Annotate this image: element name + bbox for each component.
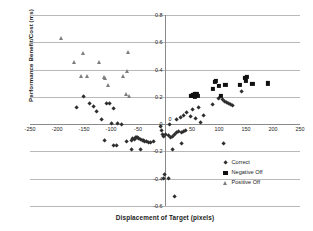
chart-legend: Correct Negative Off Positive Off bbox=[222, 158, 263, 188]
x-tick-label: 200 bbox=[269, 126, 278, 132]
data-point-negative-off bbox=[243, 76, 247, 80]
gridline bbox=[30, 206, 300, 207]
data-point-negative-off bbox=[213, 80, 217, 84]
x-tick-label: 0 bbox=[169, 116, 172, 122]
x-axis-title: Displacement of Target (pixels) bbox=[30, 214, 300, 221]
data-point-negative-off bbox=[194, 92, 198, 96]
y-tick-label: 0.4 bbox=[155, 67, 163, 73]
legend-label: Positive Off bbox=[232, 180, 261, 186]
legend-label: Negative Off bbox=[232, 170, 263, 176]
legend-item-positive-off: Positive Off bbox=[222, 178, 263, 188]
x-tick-label: -100 bbox=[106, 126, 117, 132]
data-point-negative-off bbox=[237, 83, 241, 87]
data-point-positive-off bbox=[126, 50, 130, 54]
y-tick-label: 0 bbox=[160, 121, 163, 127]
legend-item-negative-off: Negative Off bbox=[222, 168, 263, 178]
y-tick-label: -0.4 bbox=[153, 176, 162, 182]
y-tick-label: -0.6 bbox=[153, 203, 162, 209]
x-tick-label: 100 bbox=[215, 126, 224, 132]
x-tick-label: 150 bbox=[242, 126, 251, 132]
data-point-negative-off bbox=[245, 75, 249, 79]
data-point-positive-off bbox=[106, 83, 110, 87]
legend-item-correct: Correct bbox=[222, 158, 263, 168]
data-point-positive-off bbox=[97, 60, 101, 64]
square-marker-icon bbox=[222, 170, 229, 177]
x-tick-label: -250 bbox=[25, 126, 36, 132]
y-tick-label: 0.8 bbox=[155, 12, 163, 18]
x-tick-label: -200 bbox=[52, 126, 63, 132]
data-point-positive-off bbox=[59, 36, 63, 40]
data-point-positive-off bbox=[124, 92, 128, 96]
data-point-negative-off bbox=[223, 83, 227, 87]
data-point-negative-off bbox=[244, 79, 248, 83]
data-point-positive-off bbox=[79, 74, 83, 78]
data-point-negative-off bbox=[217, 84, 221, 88]
data-point-negative-off bbox=[193, 92, 197, 96]
data-point-positive-off bbox=[72, 60, 76, 64]
x-tick-label: 50 bbox=[189, 126, 195, 132]
data-point-positive-off bbox=[121, 74, 125, 78]
triangle-marker-icon bbox=[222, 180, 229, 187]
diamond-marker-icon bbox=[222, 160, 229, 167]
data-point-positive-off bbox=[85, 74, 89, 78]
data-point-positive-off bbox=[81, 51, 85, 55]
y-tick-label: 0.2 bbox=[155, 94, 163, 100]
x-tick-label: -50 bbox=[134, 126, 142, 132]
y-tick-label: 0.6 bbox=[155, 39, 163, 45]
y-axis-line bbox=[165, 15, 166, 206]
scatter-chart: Performance Benefit/Cost (ms) 0.80.60.40… bbox=[0, 0, 313, 231]
data-point-negative-off bbox=[250, 82, 254, 86]
data-point-negative-off bbox=[210, 87, 214, 91]
legend-label: Correct bbox=[232, 160, 250, 166]
data-point-negative-off bbox=[266, 81, 270, 85]
x-tick-label: -150 bbox=[79, 126, 90, 132]
y-tick-label: -0.2 bbox=[153, 148, 162, 154]
data-point-positive-off bbox=[102, 75, 106, 79]
data-point-positive-off bbox=[103, 76, 107, 80]
x-tick-label: 250 bbox=[296, 126, 305, 132]
data-point-negative-off bbox=[214, 79, 218, 83]
